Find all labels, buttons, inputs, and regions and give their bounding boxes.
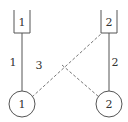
slot-1: 1 (14, 10, 30, 33)
edge-2: 2 (109, 33, 119, 91)
diagram-canvas: 1 2 1 2 3 1 2 (0, 0, 128, 122)
edge-2-label: 2 (112, 56, 119, 69)
edge-1: 1 (10, 33, 23, 91)
edge-1-label: 1 (10, 56, 17, 69)
node-1: 1 (9, 91, 35, 117)
slot-2-label: 2 (106, 16, 113, 29)
edge-3: 3 (32, 33, 102, 97)
edge-4 (62, 65, 99, 97)
slot-2: 2 (101, 10, 117, 33)
bipartite-matching-diagram: 1 2 1 2 3 1 2 (0, 0, 128, 122)
slot-1-label: 1 (19, 16, 26, 29)
edge-3-label: 3 (36, 59, 43, 72)
node-2-label: 2 (106, 98, 113, 111)
node-1-label: 1 (19, 98, 26, 111)
node-2: 2 (96, 91, 122, 117)
